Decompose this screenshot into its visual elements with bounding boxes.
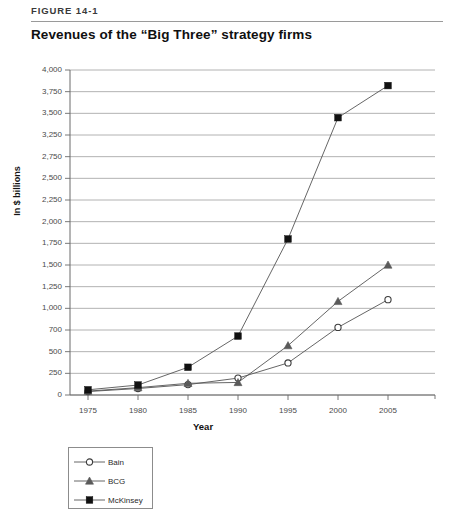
legend-item-mckinsey[interactable]: McKinsey <box>69 490 152 510</box>
y-axis-tick-label: 4,000 <box>20 66 62 74</box>
series-line <box>88 86 388 390</box>
y-axis-tick-label: 0 <box>20 391 62 399</box>
y-axis-tick-label: 2,000 <box>20 218 62 226</box>
data-point-marker <box>86 459 92 465</box>
x-axis-tick-label: 2005 <box>368 407 408 415</box>
legend-item-label: BCG <box>108 477 125 486</box>
data-point-marker <box>335 324 341 330</box>
y-axis-tick-label: 3,500 <box>20 109 62 117</box>
data-series-bcg <box>84 261 392 394</box>
y-axis-tick-label: 3,750 <box>20 88 62 96</box>
line-chart: 4,0003,7503,5003,2502,7502,5002,2502,000… <box>0 0 454 519</box>
series-line <box>88 265 388 391</box>
axis-lines <box>70 70 435 395</box>
y-axis-tick-label: 1,000 <box>20 304 62 312</box>
x-axis-tick-label: 1995 <box>268 407 308 415</box>
y-axis-tick-label: 500 <box>20 348 62 356</box>
y-axis-ticks <box>65 70 70 395</box>
data-point-marker <box>335 114 342 121</box>
open-circle-marker <box>74 452 105 472</box>
x-axis-tick-label: 1980 <box>118 407 158 415</box>
legend-item-label: Bain <box>108 458 124 467</box>
x-axis-tick-label: 1990 <box>218 407 258 415</box>
x-axis-tick-label: 2000 <box>318 407 358 415</box>
y-axis-title: In $ billions <box>12 146 22 236</box>
data-point-marker <box>285 236 292 243</box>
data-point-marker <box>235 333 242 340</box>
gridlines <box>70 70 435 395</box>
x-axis-title: Year <box>193 421 213 432</box>
filled-square-marker <box>74 490 105 510</box>
filled-triangle-marker <box>74 471 105 491</box>
data-point-marker <box>85 387 92 394</box>
y-axis-tick-label: 2,500 <box>20 174 62 182</box>
legend-item-bcg[interactable]: BCG <box>69 471 152 491</box>
legend-item-bain[interactable]: Bain <box>69 452 152 472</box>
y-axis-tick-label: 3,250 <box>20 131 62 139</box>
y-axis-tick-label: 2,750 <box>20 153 62 161</box>
x-axis-ticks <box>88 395 435 400</box>
y-axis-tick-label: 250 <box>20 369 62 377</box>
x-axis-tick-label: 1985 <box>168 407 208 415</box>
data-series-mckinsey <box>85 82 392 393</box>
data-point-marker <box>135 382 142 389</box>
y-axis-tick-label: 1,750 <box>20 239 62 247</box>
y-axis-tick-label: 1,500 <box>20 261 62 269</box>
y-axis-tick-label: 700 <box>20 326 62 334</box>
y-axis-tick-label: 1,250 <box>20 283 62 291</box>
data-series-group <box>84 82 392 394</box>
data-point-marker <box>86 497 93 504</box>
chart-canvas <box>0 0 454 519</box>
chart-legend: BainBCGMcKinsey <box>68 447 153 509</box>
data-point-marker <box>334 297 342 304</box>
y-axis-tick-label: 2,250 <box>20 196 62 204</box>
data-point-marker <box>385 82 392 89</box>
x-axis-tick-label: 1975 <box>68 407 108 415</box>
data-point-marker <box>185 364 192 371</box>
legend-item-label: McKinsey <box>108 496 143 505</box>
data-point-marker <box>385 297 391 303</box>
data-point-marker <box>285 360 291 366</box>
